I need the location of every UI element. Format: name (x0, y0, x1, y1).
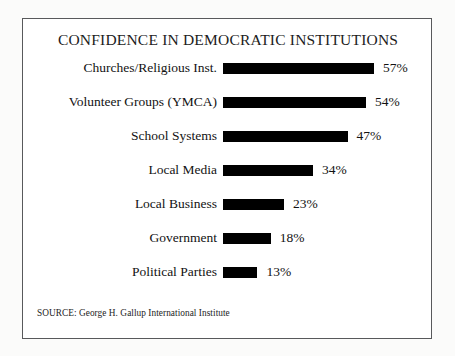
bar-track: 57% (223, 59, 408, 77)
bar-row: Government 18% (23, 229, 433, 263)
bar-fill (223, 233, 271, 244)
bar-value-label: 34% (322, 161, 347, 179)
bar-row: Local Media 34% (23, 161, 433, 195)
bar-track: 23% (223, 195, 318, 213)
bar-category-label: Volunteer Groups (YMCA) (69, 93, 217, 111)
chart-frame: CONFIDENCE IN DEMOCRATIC INSTITUTIONS Ch… (22, 18, 432, 339)
chart-title: CONFIDENCE IN DEMOCRATIC INSTITUTIONS (23, 31, 433, 49)
bar-category-label: Political Parties (132, 263, 217, 281)
bar-category-label: Local Media (148, 161, 217, 179)
bar-track: 54% (223, 93, 400, 111)
bar-value-label: 47% (357, 127, 382, 145)
bar-track: 13% (223, 263, 291, 281)
bar-row: Local Business 23% (23, 195, 433, 229)
bar-track: 18% (223, 229, 304, 247)
bar-value-label: 54% (375, 93, 400, 111)
bar-value-label: 23% (293, 195, 318, 213)
bar-category-label: Local Business (135, 195, 217, 213)
bar-value-label: 18% (280, 229, 305, 247)
bar-row: Political Parties 13% (23, 263, 433, 297)
bar-row: Volunteer Groups (YMCA) 54% (23, 93, 433, 127)
bar-chart-plot-area: Churches/Religious Inst. 57% Volunteer G… (23, 59, 433, 297)
bar-row: Churches/Religious Inst. 57% (23, 59, 433, 93)
bar-fill (223, 131, 348, 142)
bar-fill (223, 63, 374, 74)
bar-track: 34% (223, 161, 347, 179)
source-note: SOURCE: George H. Gallup International I… (37, 308, 230, 318)
bar-value-label: 57% (383, 59, 408, 77)
bar-row: School Systems 47% (23, 127, 433, 161)
bar-fill (223, 267, 257, 278)
bar-fill (223, 165, 313, 176)
bar-track: 47% (223, 127, 381, 145)
bar-category-label: Government (150, 229, 217, 247)
bar-category-label: School Systems (131, 127, 217, 145)
bar-category-label: Churches/Religious Inst. (84, 59, 218, 77)
bar-fill (223, 199, 284, 210)
bar-value-label: 13% (266, 263, 291, 281)
bar-fill (223, 97, 366, 108)
